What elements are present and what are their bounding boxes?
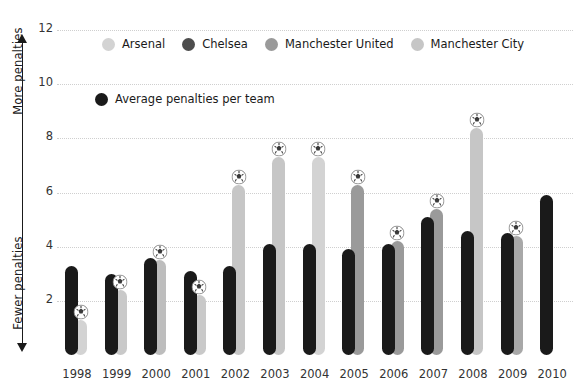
bar-average (421, 217, 434, 355)
x-axis-tick-label: 2005 (340, 367, 369, 381)
bar-group: 2006 (382, 14, 406, 355)
legend-teams: ArsenalChelseaManchester UnitedMancheste… (102, 37, 541, 51)
bar-average (461, 231, 474, 355)
legend-label: Arsenal (122, 37, 165, 51)
bar-average (223, 266, 236, 355)
bar-group: 2009 (501, 14, 525, 355)
football-icon (152, 245, 167, 260)
arrow-down-icon (17, 343, 27, 352)
football-icon (390, 226, 405, 241)
bar-group: 2004 (303, 14, 327, 355)
y-axis-tick-label: 8 (31, 131, 53, 143)
football-icon (469, 112, 484, 127)
football-icon (429, 193, 444, 208)
football-icon (311, 142, 326, 157)
football-icon (192, 280, 207, 295)
y-axis-tick-label: 6 (31, 186, 53, 198)
bar-average (382, 244, 395, 355)
legend-item-team: Manchester City (411, 37, 524, 51)
y-axis-tick-label: 12 (31, 23, 53, 35)
bar-group: 1998 (65, 14, 89, 355)
legend-item-team: Chelsea (182, 37, 248, 51)
bar-group: 2002 (223, 14, 247, 355)
legend-label: Manchester United (285, 37, 394, 51)
bar-average (303, 244, 316, 355)
legend-swatch-icon (95, 93, 108, 106)
football-icon (271, 142, 286, 157)
x-axis-tick-label: 2000 (142, 367, 171, 381)
bar-average (342, 249, 355, 355)
x-axis-tick-label: 2007 (419, 367, 448, 381)
y-axis-direction-indicator: More penalties Fewer penalties (0, 18, 30, 363)
legend-item-team: Arsenal (102, 37, 165, 51)
bar-group: 1999 (105, 14, 129, 355)
legend-average: Average penalties per team (95, 92, 292, 106)
football-icon (509, 220, 524, 235)
legend-item-average: Average penalties per team (95, 92, 275, 106)
legend-swatch-icon (411, 38, 424, 51)
bar-group: 2007 (421, 14, 445, 355)
x-axis-tick-label: 2002 (221, 367, 250, 381)
bar-group: 2001 (184, 14, 208, 355)
legend-label: Average penalties per team (115, 92, 275, 106)
x-axis-tick-label: 2003 (260, 367, 289, 381)
bar-group: 2005 (342, 14, 366, 355)
bar-average (263, 244, 276, 355)
x-axis-tick-label: 1998 (62, 367, 91, 381)
football-icon (113, 275, 128, 290)
legend-label: Manchester City (431, 37, 524, 51)
y-axis-tick-label: 4 (31, 240, 53, 252)
football-icon (350, 169, 365, 184)
y-axis-tick-label: 2 (31, 294, 53, 306)
x-axis-tick-label: 2001 (181, 367, 210, 381)
bar-group: 2000 (144, 14, 168, 355)
bar-group: 2003 (263, 14, 287, 355)
x-axis-tick-label: 2009 (498, 367, 527, 381)
axis-caption-fewer: Fewer penalties (11, 223, 25, 343)
x-axis-tick-label: 1999 (102, 367, 131, 381)
legend-label: Chelsea (202, 37, 248, 51)
bar-average (144, 258, 157, 355)
y-axis-tick-label: 10 (31, 77, 53, 89)
x-axis-tick-label: 2010 (538, 367, 567, 381)
legend-swatch-icon (265, 38, 278, 51)
football-icon (73, 304, 88, 319)
x-axis-tick-label: 2008 (458, 367, 487, 381)
legend-item-team: Manchester United (265, 37, 394, 51)
legend-swatch-icon (102, 38, 115, 51)
legend-swatch-icon (182, 38, 195, 51)
bar-average (501, 233, 514, 355)
penalties-bar-chart: More penalties Fewer penalties 121086421… (0, 0, 573, 388)
football-icon (231, 169, 246, 184)
x-axis-tick-label: 2006 (379, 367, 408, 381)
x-axis-tick-label: 2004 (300, 367, 329, 381)
axis-caption-more: More penalties (11, 11, 25, 131)
bar-group: 2008 (461, 14, 485, 355)
bar-group: 2010 (540, 14, 564, 355)
bar-average (540, 195, 553, 355)
plot-area: 1210864219981999200020012002200320042005… (57, 14, 573, 355)
